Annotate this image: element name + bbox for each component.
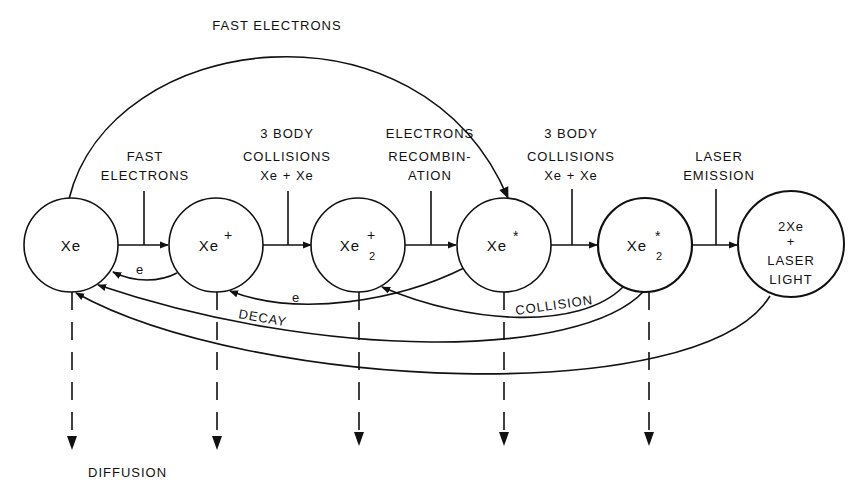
node-laser-product: 2Xe + LASER LIGHT xyxy=(738,191,844,297)
svg-text:LASER: LASER xyxy=(767,253,815,268)
svg-text:ELECTRONS: ELECTRONS xyxy=(386,126,474,141)
svg-text:3 BODY: 3 BODY xyxy=(260,126,314,141)
svg-text:COLLISIONS: COLLISIONS xyxy=(243,149,331,164)
collision-label: COLLISION xyxy=(514,292,594,318)
svg-text:Xe: Xe xyxy=(487,237,507,254)
process-label-1: FAST ELECTRONS xyxy=(101,149,189,183)
svg-text:+: + xyxy=(367,227,376,243)
svg-text:Xe: Xe xyxy=(199,237,219,254)
svg-text:+: + xyxy=(787,234,796,249)
return-e-label-1: e xyxy=(136,262,144,277)
svg-text:2: 2 xyxy=(656,250,663,262)
svg-text:Xe + Xe: Xe + Xe xyxy=(544,168,598,183)
svg-text:2Xe: 2Xe xyxy=(778,219,804,234)
node-xe: Xe xyxy=(24,198,118,292)
process-label-4: 3 BODY COLLISIONS Xe + Xe xyxy=(527,126,615,183)
node-xe2-excited: Xe * 2 xyxy=(598,198,692,292)
process-label-3: ELECTRONS RECOMBIN- ATION xyxy=(386,126,474,183)
svg-text:*: * xyxy=(655,228,661,244)
svg-text:COLLISIONS: COLLISIONS xyxy=(527,149,615,164)
svg-text:LASER: LASER xyxy=(695,149,743,164)
process-label-5: LASER EMISSION xyxy=(683,149,755,183)
svg-text:3 BODY: 3 BODY xyxy=(544,126,598,141)
return-e-xeplus-to-xe xyxy=(113,272,177,280)
svg-text:Xe + Xe: Xe + Xe xyxy=(260,168,314,183)
node-xe2-ion: Xe + 2 xyxy=(311,198,405,292)
svg-text:Xe: Xe xyxy=(340,237,360,254)
fast-electrons-arc-label: FAST ELECTRONS xyxy=(212,18,341,33)
process-label-2: 3 BODY COLLISIONS Xe + Xe xyxy=(243,126,331,183)
svg-text:Xe: Xe xyxy=(61,237,81,254)
svg-text:LIGHT: LIGHT xyxy=(769,272,812,287)
svg-text:RECOMBIN-: RECOMBIN- xyxy=(388,149,471,164)
svg-text:EMISSION: EMISSION xyxy=(683,168,755,183)
diffusion-label: DIFFUSION xyxy=(88,465,167,480)
xenon-laser-kinetics-diagram: FAST ELECTRONS FAST ELECTRONS 3 BODY COL… xyxy=(0,0,867,496)
svg-text:2: 2 xyxy=(369,250,376,262)
svg-text:FAST: FAST xyxy=(127,149,164,164)
node-xe-excited: Xe * xyxy=(457,198,551,292)
svg-text:Xe: Xe xyxy=(627,237,647,254)
return-e-label-2: e xyxy=(292,290,300,305)
svg-text:*: * xyxy=(513,228,519,244)
node-xe-ion: Xe + xyxy=(169,198,263,292)
svg-text:ELECTRONS: ELECTRONS xyxy=(101,168,189,183)
svg-text:+: + xyxy=(224,227,233,243)
svg-text:ATION: ATION xyxy=(408,168,452,183)
return-product-to-xe xyxy=(76,293,770,374)
